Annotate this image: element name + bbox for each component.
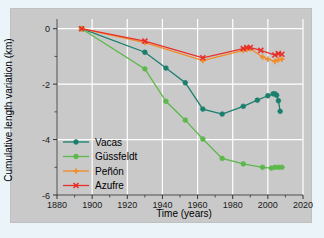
y-tick-label: -2 <box>42 80 50 90</box>
y-tick-label: -6 <box>42 191 50 201</box>
y-tick-labels: 0-2-4-6 <box>42 24 50 200</box>
line-chart: 18801900192019401960198020002020 0-2-4-6… <box>0 0 324 238</box>
x-tick-label: 2000 <box>258 200 278 210</box>
x-tick-label: 1980 <box>223 200 243 210</box>
x-tick-label: 1900 <box>82 200 102 210</box>
x-axis-title: Time (years) <box>156 208 212 219</box>
legend-label: Güssfeldt <box>95 151 137 162</box>
chart-container: 18801900192019401960198020002020 0-2-4-6… <box>0 0 324 238</box>
plot-background <box>57 19 303 195</box>
y-tick-label: 0 <box>45 24 50 34</box>
legend-label: Azufre <box>95 180 124 191</box>
x-tick-label: 1880 <box>47 200 67 210</box>
y-tick-label: -4 <box>42 135 50 145</box>
legend-label: Vacas <box>95 137 122 148</box>
legend-label: Peñón <box>95 166 124 177</box>
x-tick-label: 2020 <box>293 200 313 210</box>
x-tick-label: 1920 <box>117 200 137 210</box>
y-axis-title: Cumulative length variation (km) <box>3 38 14 181</box>
